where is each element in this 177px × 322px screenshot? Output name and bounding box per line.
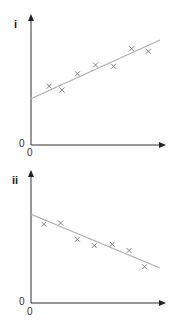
y-origin-label-i: 0: [19, 138, 25, 149]
x-axis-arrow-icon: [159, 142, 166, 148]
data-point-x-marker: [146, 49, 151, 54]
x-axis-arrow-icon: [159, 300, 166, 306]
data-point-x-marker: [111, 64, 116, 69]
data-point-x-marker: [110, 242, 115, 247]
y-axis-arrow-icon: [28, 14, 34, 21]
data-point-x-marker: [75, 71, 80, 76]
y-origin-label-ii: 0: [19, 296, 25, 307]
x-origin-label-i: 0: [27, 147, 33, 158]
data-point-x-marker: [129, 46, 134, 51]
data-point-x-marker: [92, 243, 97, 248]
best-fit-line: [31, 40, 160, 99]
data-point-x-marker: [58, 221, 63, 226]
y-axis-arrow-icon: [28, 170, 34, 177]
chart-panel-ii: ii 0 0: [0, 160, 177, 322]
chart-ii-plot: [0, 160, 177, 322]
best-fit-line: [31, 214, 160, 268]
data-point-x-marker: [127, 248, 132, 253]
chart-panel-i: i 0 0: [0, 0, 177, 160]
data-point-x-marker: [93, 63, 98, 68]
panel-label-i: i: [14, 18, 17, 30]
data-point-x-marker: [75, 237, 80, 242]
data-point-x-marker: [142, 264, 147, 269]
data-point-x-marker: [47, 84, 52, 89]
chart-i-plot: [0, 0, 177, 160]
data-point-x-marker: [59, 88, 64, 93]
x-origin-label-ii: 0: [27, 306, 33, 317]
panel-label-ii: ii: [12, 174, 18, 186]
data-point-x-marker: [41, 222, 46, 227]
